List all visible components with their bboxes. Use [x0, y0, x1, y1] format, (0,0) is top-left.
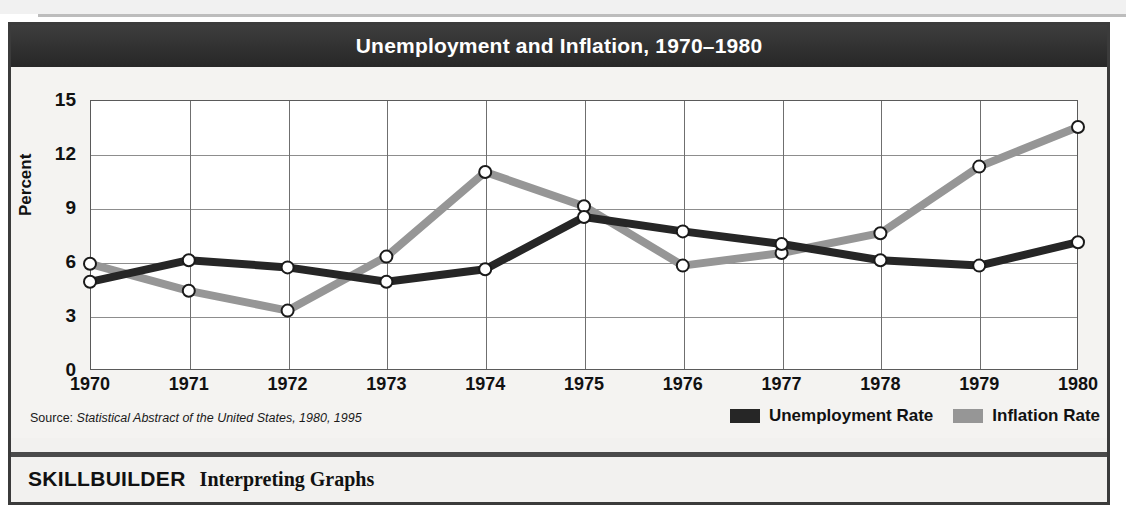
data-point-marker — [183, 285, 195, 297]
data-point-marker — [380, 251, 392, 263]
data-point-marker — [677, 260, 689, 272]
source-citation: Statistical Abstract of the United State… — [77, 411, 362, 425]
y-axis-tick-label: 3 — [30, 306, 76, 325]
y-axis-tick-label: 15 — [30, 90, 76, 109]
chart-legend: Unemployment RateInflation Rate — [730, 406, 1100, 426]
data-point-marker — [479, 166, 491, 178]
data-point-marker — [874, 227, 886, 239]
skillbuilder-label: SKILLBUILDER — [28, 467, 186, 491]
data-point-marker — [282, 305, 294, 317]
legend-swatch-icon — [730, 409, 760, 423]
data-point-marker — [677, 225, 689, 237]
x-axis-tick-label: 1971 — [144, 374, 234, 395]
legend-swatch-icon — [953, 409, 983, 423]
legend-item: Inflation Rate — [953, 406, 1100, 426]
series-lines-layer — [90, 100, 1078, 370]
y-axis-tick-label: 9 — [30, 198, 76, 217]
data-point-marker — [183, 254, 195, 266]
data-point-marker — [578, 211, 590, 223]
data-point-marker — [1072, 236, 1084, 248]
source-note: Source: Statistical Abstract of the Unit… — [30, 411, 362, 425]
x-axis-tick-label: 1976 — [638, 374, 728, 395]
data-point-marker — [84, 276, 96, 288]
data-point-marker — [1072, 121, 1084, 133]
x-axis-tick-label: 1975 — [539, 374, 629, 395]
footer-divider — [11, 452, 1107, 457]
chart-title: Unemployment and Inflation, 1970–1980 — [356, 34, 763, 58]
y-axis-tick-label: 12 — [30, 144, 76, 163]
data-point-marker — [479, 263, 491, 275]
series-line — [90, 217, 1078, 282]
y-axis-tick-labels: 03691215 — [0, 0, 88, 505]
data-point-marker — [776, 238, 788, 250]
page-top-strip — [0, 0, 1126, 14]
x-axis-tick-label: 1977 — [737, 374, 827, 395]
x-axis-tick-label: 1970 — [45, 374, 135, 395]
data-point-marker — [874, 254, 886, 266]
data-point-marker — [380, 276, 392, 288]
legend-label: Inflation Rate — [992, 406, 1100, 426]
source-prefix: Source: — [30, 411, 77, 425]
y-axis-tick-label: 6 — [30, 252, 76, 271]
legend-label: Unemployment Rate — [769, 406, 933, 426]
data-point-marker — [84, 258, 96, 270]
page-top-rule — [38, 14, 1126, 17]
figure-screenshot: Unemployment and Inflation, 1970–1980 Pe… — [0, 0, 1126, 505]
x-axis-tick-label: 1974 — [440, 374, 530, 395]
data-point-marker — [973, 260, 985, 272]
x-axis-tick-label: 1979 — [934, 374, 1024, 395]
legend-item: Unemployment Rate — [730, 406, 933, 426]
x-axis-tick-label: 1973 — [341, 374, 431, 395]
skillbuilder-task: Interpreting Graphs — [200, 468, 375, 491]
x-axis-tick-label: 1972 — [243, 374, 333, 395]
chart-title-banner: Unemployment and Inflation, 1970–1980 — [11, 25, 1107, 67]
x-axis-tick-label: 1980 — [1033, 374, 1123, 395]
data-point-marker — [973, 161, 985, 173]
x-axis-tick-label: 1978 — [835, 374, 925, 395]
data-point-marker — [282, 261, 294, 273]
skillbuilder-footer: SKILLBUILDER Interpreting Graphs — [28, 467, 374, 491]
